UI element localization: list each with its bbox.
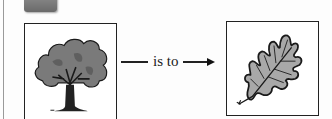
relation-line-left [121, 61, 148, 62]
tree-image-frame [24, 23, 117, 119]
analogy-relation: is to [121, 52, 225, 72]
relation-label: is to [148, 54, 183, 69]
relation-line-right [183, 61, 207, 62]
arrow-right-icon [207, 58, 215, 66]
left-margin-rule [3, 0, 4, 119]
leaf-image-frame [226, 21, 319, 116]
gray-tab-marker [24, 0, 57, 12]
tree-icon [25, 24, 116, 119]
oak-leaf-icon [227, 22, 318, 115]
